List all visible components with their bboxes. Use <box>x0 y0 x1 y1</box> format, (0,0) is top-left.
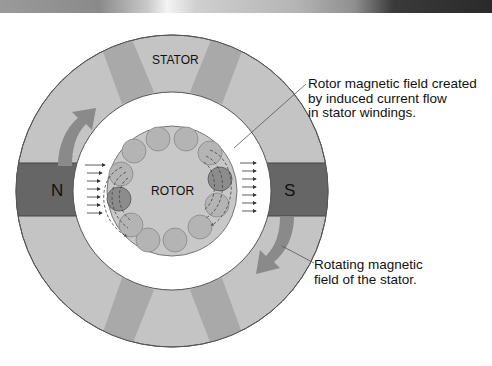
rotor-bar <box>198 141 222 165</box>
rotor-bar <box>119 213 143 237</box>
rotor-bar <box>188 215 212 239</box>
callout-rotor-magnetic-field: Rotor magnetic field created by induced … <box>308 77 477 121</box>
rotor-bar <box>163 228 187 252</box>
callout-rotating-stator-field: Rotating magnetic field of the stator. <box>314 258 423 287</box>
rotor-bar <box>174 127 198 151</box>
induction-motor-diagram: STATOR ROTOR N S <box>0 0 492 366</box>
north-pole-label: N <box>51 181 63 200</box>
rotor-bar <box>122 139 146 163</box>
rotor-bar <box>109 162 133 186</box>
rotor-bar-active <box>208 167 232 191</box>
rotor-bar-active <box>107 187 131 211</box>
rotor-label: ROTOR <box>151 184 194 198</box>
rotor-bar <box>146 127 170 151</box>
south-pole-label: S <box>284 181 295 200</box>
stator-label: STATOR <box>152 53 199 67</box>
